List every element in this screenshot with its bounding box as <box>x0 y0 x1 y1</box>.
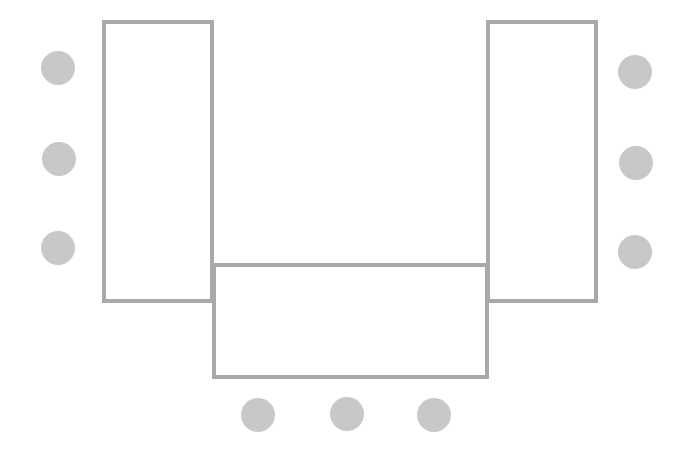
right-table <box>486 20 598 303</box>
seat-right-2 <box>619 146 653 180</box>
left-table <box>102 20 214 303</box>
seat-left-3 <box>41 231 75 265</box>
seat-left-1 <box>41 51 75 85</box>
u-shape-seating-diagram <box>0 0 676 453</box>
seat-bottom-3 <box>417 398 451 432</box>
seat-bottom-1 <box>241 398 275 432</box>
seat-right-1 <box>618 55 652 89</box>
bottom-table <box>212 263 489 379</box>
seat-left-2 <box>42 142 76 176</box>
seat-right-3 <box>618 235 652 269</box>
seat-bottom-2 <box>330 397 364 431</box>
